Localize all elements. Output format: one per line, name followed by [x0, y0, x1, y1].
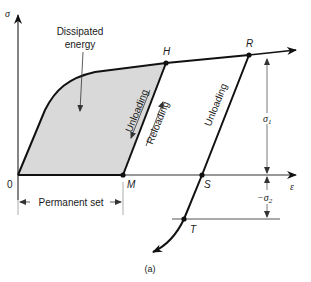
- permanent-set-label: Permanent set: [38, 197, 103, 208]
- point-t-label: T: [190, 224, 197, 235]
- unloading-curve-r: [153, 55, 249, 252]
- point-s: [199, 172, 204, 177]
- point-h-label: H: [163, 46, 171, 57]
- point-h: [163, 60, 168, 65]
- dissipated-energy-label-1: Dissipated: [57, 26, 104, 37]
- point-s-label: S: [204, 179, 211, 190]
- origin-label: 0: [7, 179, 13, 190]
- y-axis-label: σ: [5, 8, 11, 19]
- point-t: [181, 216, 186, 221]
- unloading-label-right: Unloading: [202, 82, 229, 128]
- loading-curve-extension: [249, 50, 296, 55]
- figure-caption: (a): [145, 264, 156, 274]
- point-r-label: R: [246, 38, 253, 49]
- point-r: [246, 52, 251, 57]
- point-m: [120, 172, 125, 177]
- dissipated-energy-label-2: energy: [65, 39, 96, 50]
- x-axis-label: ε: [290, 181, 294, 192]
- point-m-label: M: [127, 179, 136, 190]
- sigma2-label: −σ2: [257, 192, 273, 205]
- hysteresis-diagram: σ ε 0 H R M S T Dissipated energy Unload…: [0, 0, 311, 282]
- sigma1-label: σ1: [263, 113, 271, 126]
